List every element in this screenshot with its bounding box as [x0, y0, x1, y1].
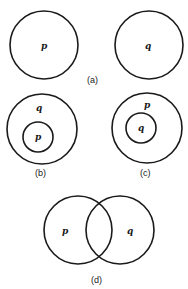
label-p-left: p — [62, 226, 69, 236]
label-p-outer: p — [144, 100, 151, 110]
circle-q-overlap — [86, 196, 154, 264]
panel-b: q p (b) — [7, 94, 77, 178]
label-q: q — [145, 41, 151, 51]
label-q-right: q — [127, 226, 133, 236]
label-q-inner: q — [138, 123, 144, 133]
label-p-inner: p — [35, 132, 42, 142]
caption-a: (a) — [87, 75, 98, 85]
caption-b: (b) — [35, 168, 46, 178]
panel-d: p q (d) — [44, 196, 154, 285]
caption-d: (d) — [91, 275, 102, 285]
label-p: p — [41, 41, 48, 51]
caption-c: (c) — [140, 168, 151, 178]
label-q-outer: q — [36, 103, 42, 113]
panel-c: p q (c) — [112, 93, 182, 178]
panel-a: p q (a) — [10, 11, 183, 85]
circle-p-overlap — [44, 196, 112, 264]
venn-diagram-figure: p q (a) q p (b) p q (c) p q (d) — [0, 0, 188, 289]
